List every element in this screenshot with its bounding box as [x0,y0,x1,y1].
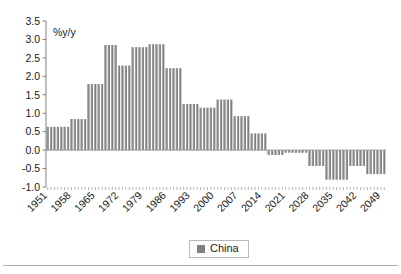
bar-highlight [118,66,119,150]
bar-highlight [217,100,218,151]
bar-highlight [230,100,231,151]
bar-highlight [186,104,187,150]
bar-highlight [91,84,92,150]
bar-highlight [356,150,357,166]
bar-highlight [247,116,248,150]
bar-highlight [57,127,58,150]
bar-highlight [322,150,323,166]
bar-highlight [135,47,136,150]
bar-highlight [261,134,262,151]
bar-highlight [359,150,360,166]
bar-highlight [145,47,146,150]
bar-highlight [329,150,330,180]
bar-highlight [237,116,238,150]
bar-highlight [132,47,133,150]
bar-highlight [104,45,105,150]
bar-highlight [179,68,180,150]
bar-series-china [47,44,386,179]
bar-highlight [203,108,204,150]
bar-chart-plot: 3.53.02.52.01.51.00.50.0-0.5-1.0 1951195… [0,0,401,274]
y-axis: 3.53.02.52.01.51.00.50.0-0.5-1.0 [22,15,46,193]
chart-legend: China [189,240,249,258]
y-axis-tick-label: 3.0 [25,33,40,45]
chart-figure: 3.53.02.52.01.51.00.50.0-0.5-1.0 1951195… [0,0,401,274]
bar-highlight [336,150,337,180]
bar-highlight [149,44,150,150]
bar-highlight [166,68,167,150]
bar-highlight [346,150,347,180]
bar-highlight [319,150,320,166]
bar-highlight [101,84,102,150]
bar-highlight [370,150,371,174]
x-axis-tick-label: 2014 [238,189,263,214]
bar-highlight [64,127,65,150]
bar-highlight [176,68,177,150]
bar-highlight [363,150,364,166]
bar-highlight [138,47,139,150]
x-axis-tick-label: 2028 [286,189,311,214]
bar-highlight [342,150,343,180]
bar-highlight [196,104,197,150]
y-axis-tick-label: 1.0 [25,107,40,119]
bar-highlight [98,84,99,150]
bar-highlight [332,150,333,180]
bar-highlight [94,84,95,150]
y-axis-tick-label: 1.5 [25,89,40,101]
y-axis-tick-label: 2.0 [25,70,40,82]
bar-highlight [81,119,82,150]
x-axis-tick-label: 2035 [310,189,335,214]
y-axis-tick-label: -0.5 [22,162,40,174]
bar-highlight [162,44,163,150]
bar-highlight [213,108,214,150]
x-axis-tick-label: 2049 [357,189,382,214]
bar-highlight [142,47,143,150]
bar-highlight [380,150,381,174]
bar-highlight [240,116,241,150]
bar-highlight [200,108,201,150]
y-axis-tick-label: 0.0 [25,144,40,156]
bar-highlight [159,44,160,150]
bar-highlight [271,150,272,155]
x-axis-tick-label: 1993 [167,189,192,214]
x-axis-tick-label: 2007 [215,189,240,214]
legend-label-china: China [210,243,239,254]
bar-highlight [189,104,190,150]
bar-highlight [251,134,252,151]
bar-highlight [244,116,245,150]
bar-highlight [264,134,265,151]
x-axis-tick-label: 1965 [72,189,97,214]
bar-highlight [67,127,68,150]
y-axis-tick-label: 2.5 [25,52,40,64]
legend-swatch-china [197,245,205,253]
bar-highlight [312,150,313,166]
bar-highlight [325,150,326,180]
bar-highlight [274,150,275,155]
bar-highlight [278,150,279,155]
bar-highlight [84,119,85,150]
bar-highlight [227,100,228,151]
bar-highlight [121,66,122,150]
bar-highlight [125,66,126,150]
bar-highlight [257,134,258,151]
bar-highlight [220,100,221,151]
x-axis-tick-label: 2042 [334,189,359,214]
bar-highlight [172,68,173,150]
bar-highlight [281,150,282,155]
bar-highlight [339,150,340,180]
x-axis-tick-label: 1972 [96,189,121,214]
bar-highlight [353,150,354,166]
bar-highlight [308,150,309,166]
bar-highlight [315,150,316,166]
bar-highlight [268,150,269,155]
bar-highlight [77,119,78,150]
bar-highlight [366,150,367,174]
bar-highlight [87,84,88,150]
bar-highlight [169,68,170,150]
bar-highlight [70,119,71,150]
footer-divider [3,265,398,266]
bar-highlight [111,45,112,150]
x-axis-tick-label: 2000 [191,189,216,214]
y-axis-tick-label: 3.5 [25,15,40,27]
bar-highlight [47,127,48,150]
y-axis-tick-label: 0.5 [25,125,40,137]
